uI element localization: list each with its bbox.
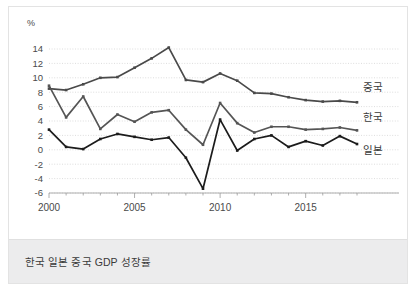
data-point-marker	[133, 66, 136, 69]
data-point-marker	[185, 128, 188, 131]
series-label-일본: 일본	[363, 144, 383, 156]
data-point-marker	[356, 101, 359, 104]
data-point-marker	[48, 84, 51, 87]
grid-lines	[49, 49, 399, 193]
data-point-marker	[321, 128, 324, 131]
data-point-marker	[116, 113, 119, 116]
data-point-marker	[321, 100, 324, 103]
data-point-marker	[253, 92, 256, 95]
data-point-marker	[270, 134, 273, 137]
x-tick-label: 2000	[38, 202, 61, 213]
data-point-marker	[270, 92, 273, 95]
data-point-marker	[236, 149, 239, 152]
data-point-marker	[116, 76, 119, 79]
axis-lines	[49, 193, 399, 198]
data-point-marker	[304, 128, 307, 131]
data-point-marker	[287, 96, 290, 99]
data-point-marker	[150, 111, 153, 114]
series-line-0	[49, 48, 357, 103]
series-label-한국: 한국	[363, 111, 383, 123]
y-tick-label: 4	[38, 115, 43, 126]
data-point-marker	[236, 122, 239, 125]
data-point-marker	[167, 136, 170, 139]
caption-bar: 한국 일본 중국 GDP 성장률	[9, 239, 407, 283]
data-point-marker	[287, 146, 290, 149]
data-point-marker	[287, 125, 290, 128]
data-point-marker	[167, 109, 170, 112]
gdp-growth-line-chart: -6-4-202468101214 2000200520102015 중국한국일…	[9, 7, 407, 239]
x-tick-label: 2010	[209, 202, 232, 213]
y-tick-label: 12	[32, 58, 43, 69]
series-line-1	[49, 86, 357, 145]
data-point-marker	[133, 120, 136, 123]
data-point-marker	[99, 77, 102, 80]
data-point-marker	[65, 116, 68, 119]
data-point-marker	[304, 99, 307, 102]
data-point-marker	[150, 57, 153, 60]
data-point-marker	[270, 125, 273, 128]
data-point-marker	[219, 118, 222, 121]
data-point-marker	[339, 100, 342, 103]
data-point-marker	[236, 79, 239, 82]
data-point-marker	[339, 126, 342, 129]
data-point-marker	[82, 95, 85, 98]
data-point-marker	[48, 128, 51, 131]
y-axis-unit-label: %	[27, 18, 35, 28]
data-point-marker	[304, 140, 307, 143]
data-point-marker	[167, 46, 170, 49]
y-tick-label: 8	[38, 87, 43, 98]
y-tick-label: 2	[38, 130, 43, 141]
data-point-marker	[185, 79, 188, 82]
y-tick-label: -2	[35, 159, 43, 170]
data-point-marker	[321, 144, 324, 147]
chart-caption: 한국 일본 중국 GDP 성장률	[25, 254, 151, 269]
data-point-marker	[356, 143, 359, 146]
y-tick-label: -4	[35, 173, 43, 184]
y-axis-tick-labels: -6-4-202468101214	[32, 43, 43, 198]
x-tick-label: 2015	[295, 202, 318, 213]
data-point-marker	[82, 83, 85, 86]
chart-figure: -6-4-202468101214 2000200520102015 중국한국일…	[8, 6, 408, 284]
data-point-marker	[48, 87, 51, 90]
data-point-marker	[65, 89, 68, 92]
data-point-marker	[99, 138, 102, 141]
data-point-marker	[202, 81, 205, 84]
chart-plot-container: -6-4-202468101214 2000200520102015 중국한국일…	[9, 7, 407, 239]
data-point-marker	[202, 187, 205, 190]
series-labels: 중국한국일본	[363, 81, 383, 156]
data-point-marker	[202, 143, 205, 146]
data-point-marker	[133, 136, 136, 139]
data-series-group	[49, 48, 357, 189]
y-tick-label: -6	[35, 187, 43, 198]
x-axis-tick-labels: 2000200520102015	[38, 202, 317, 213]
y-tick-label: 14	[32, 43, 43, 54]
data-point-marker	[65, 146, 68, 149]
data-point-marker	[99, 128, 102, 131]
data-point-marker	[219, 102, 222, 105]
data-point-marker	[185, 156, 188, 159]
data-point-marker	[219, 72, 222, 75]
data-point-marker	[116, 133, 119, 136]
y-tick-label: 6	[38, 101, 43, 112]
data-point-marker	[339, 135, 342, 138]
x-tick-label: 2005	[123, 202, 146, 213]
data-point-marker	[356, 129, 359, 132]
data-point-marker	[253, 138, 256, 141]
y-tick-label: 10	[32, 72, 43, 83]
data-point-marker	[253, 131, 256, 134]
data-point-marker	[82, 148, 85, 151]
y-tick-label: 0	[38, 144, 43, 155]
data-point-marker	[150, 138, 153, 141]
series-label-중국: 중국	[363, 81, 383, 93]
